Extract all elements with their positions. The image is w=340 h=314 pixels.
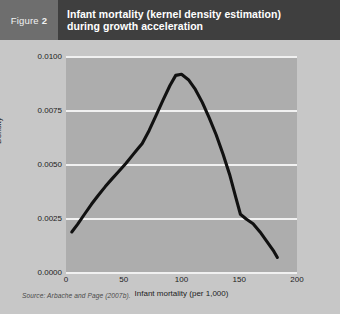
y-axis-tick-labels: 0.00000.00250.00500.00750.0100 <box>18 57 62 273</box>
figure-title-line-2: during growth acceleration <box>67 20 332 32</box>
figure-badge-number: 2 <box>42 15 47 26</box>
x-tick-label-0: 0 <box>51 275 81 284</box>
figure-body: 0.00000.00250.00500.00750.0100 Density 0… <box>0 40 340 314</box>
figure-title-line-1: Infant mortality (kernel density estimat… <box>67 8 332 20</box>
x-tick-label-1: 50 <box>109 275 139 284</box>
x-tick-label-3: 150 <box>224 275 254 284</box>
x-tick-label-2: 100 <box>167 275 197 284</box>
y-axis-title: Density <box>0 117 3 144</box>
x-axis-tick-labels: 050100150200 <box>66 275 297 287</box>
source-note: Source: Arbache and Page (2007b). <box>22 292 131 299</box>
figure-container: Figure 2 Infant mortality (kernel densit… <box>0 0 340 314</box>
y-tick-label-4: 0.0100 <box>22 53 62 61</box>
figure-title: Infant mortality (kernel density estimat… <box>58 0 340 40</box>
y-tick-label-3: 0.0075 <box>22 107 62 115</box>
y-tick-label-2: 0.0050 <box>22 161 62 169</box>
figure-header: Figure 2 Infant mortality (kernel densit… <box>0 0 340 40</box>
figure-badge-word: Figure <box>11 15 39 26</box>
x-tick-label-4: 200 <box>282 275 312 284</box>
y-tick-label-1: 0.0025 <box>22 215 62 223</box>
figure-number-badge: Figure 2 <box>0 0 58 40</box>
density-curve <box>66 57 297 273</box>
